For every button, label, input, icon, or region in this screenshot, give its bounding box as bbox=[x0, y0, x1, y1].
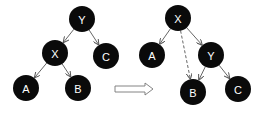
node-label: B bbox=[189, 87, 196, 99]
before-node-Y: Y bbox=[69, 6, 95, 32]
node-label: A bbox=[148, 50, 156, 62]
after-edge-Y-C bbox=[219, 65, 229, 78]
before-edge-X-A bbox=[35, 63, 47, 77]
after-edge-Y-B bbox=[199, 67, 205, 80]
after-edge-X-A bbox=[160, 29, 170, 44]
after-edge-X-Y bbox=[187, 28, 202, 45]
before-node-C: C bbox=[93, 43, 119, 69]
before-node-A: A bbox=[13, 75, 39, 101]
after-node-B: B bbox=[180, 79, 206, 105]
after-node-A: A bbox=[139, 42, 165, 68]
after-node-Y: Y bbox=[198, 42, 224, 68]
before-node-X: X bbox=[42, 40, 68, 66]
node-label: C bbox=[234, 84, 242, 96]
after-edge-X-B bbox=[181, 31, 191, 79]
transition-arrow bbox=[115, 83, 153, 95]
after-node-X: X bbox=[165, 5, 191, 31]
node-label: B bbox=[74, 83, 81, 95]
node-label: Y bbox=[207, 50, 215, 62]
before-edge-Y-C bbox=[89, 30, 98, 44]
before-edge-Y-X bbox=[64, 29, 74, 42]
right-arrow-icon bbox=[115, 83, 153, 95]
after-node-C: C bbox=[225, 76, 251, 102]
node-label: Y bbox=[78, 14, 86, 26]
node-label: A bbox=[22, 83, 30, 95]
tree-rotation-diagram: YXCABXAYBC bbox=[0, 0, 262, 113]
node-label: X bbox=[174, 13, 182, 25]
node-label: X bbox=[51, 48, 59, 60]
before-edge-X-B bbox=[62, 64, 70, 76]
before-node-B: B bbox=[65, 75, 91, 101]
node-label: C bbox=[102, 51, 110, 63]
